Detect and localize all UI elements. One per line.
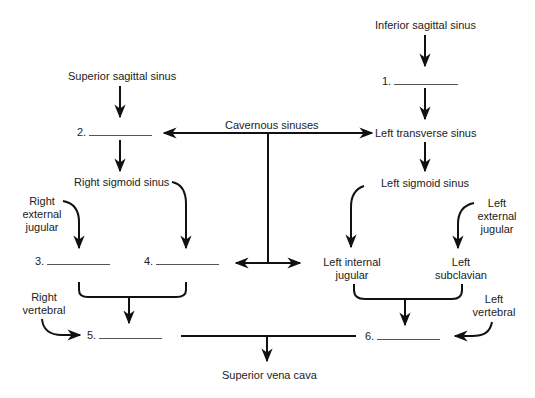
label-left-internal-jugular: Left internal jugular [318,256,386,282]
arrow-left-external-jugular-to-left-subclavian [458,203,474,248]
blank-6-line[interactable] [377,338,440,340]
blank-5-number: 5. [87,329,96,341]
label-superior-vena-cava: Superior vena cava [222,369,317,382]
label-left-subclavian: Left subclavian [431,256,491,282]
blank-3-line[interactable] [47,263,110,265]
blank-3-number: 3. [35,255,44,267]
label-inferior-sagittal-sinus: Inferior sagittal sinus [375,19,476,32]
blank-4-line[interactable] [156,263,219,265]
label-left-external-jugular: Left external jugular [473,197,521,236]
arrow-right-sigmoid-to-4 [172,182,186,248]
arrow-right-vertebral-to-5 [42,319,80,335]
arrow-left-sigmoid-to-left-internal-jugular [351,186,364,247]
label-right-vertebral: Right vertebral [20,291,68,317]
blank-5-line[interactable] [99,337,162,339]
arrow-right-external-jugular-to-3 [63,201,79,248]
blank-6-number: 6. [365,330,374,342]
blank-1: 1. [382,75,458,88]
label-right-external-jugular: Right external jugular [20,195,64,234]
label-left-transverse-sinus: Left transverse sinus [375,127,477,140]
diagram-connectors [0,0,535,398]
blank-2-number: 2. [77,126,86,138]
blank-2-line[interactable] [89,134,152,136]
blank-6: 6. [365,330,440,343]
blank-4-number: 4. [144,255,153,267]
blank-4: 4. [144,255,219,268]
blank-3: 3. [35,255,110,268]
blank-2: 2. [77,126,152,139]
blank-1-line[interactable] [394,83,458,85]
label-cavernous-sinuses: Cavernous sinuses [225,119,319,132]
bracket-3-4 [79,282,186,297]
blank-5: 5. [87,329,162,342]
label-left-vertebral: Left vertebral [469,293,519,319]
arrow-left-vertebral-to-6 [455,322,492,336]
blank-1-number: 1. [382,75,391,87]
label-superior-sagittal-sinus: Superior sagittal sinus [68,70,176,83]
venous-drainage-diagram: Inferior sagittal sinus 1. Superior sagi… [0,0,535,398]
label-left-sigmoid-sinus: Left sigmoid sinus [381,177,469,190]
label-right-sigmoid-sinus: Right sigmoid sinus [74,176,169,189]
bracket-left-ij-subclavian [354,284,462,299]
